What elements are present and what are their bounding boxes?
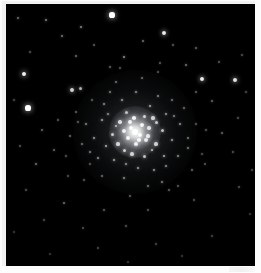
star-point [97,247,99,249]
star-point [53,149,55,151]
star-point [93,44,95,46]
star-point [63,202,65,204]
star-point [101,175,103,177]
star-point [173,115,175,117]
star-point [157,71,159,73]
star-point [19,145,21,147]
star-point [161,129,164,132]
star-point [151,116,154,119]
star-point [123,149,126,152]
star-point [109,91,111,93]
star-point [153,169,156,172]
star-point [128,120,132,124]
star-point [89,151,91,153]
star-point [82,227,84,229]
star-point [187,147,189,149]
star-point [69,135,71,137]
star-point [129,195,131,197]
star-point [161,181,163,183]
star-point [179,123,181,125]
star-point [109,12,114,17]
star-point [147,126,150,129]
star-point [45,19,47,21]
star-point [143,155,146,158]
star-point [162,31,166,35]
star-point [185,64,187,66]
star-point [155,243,157,245]
star-point [245,91,247,93]
star-point [105,145,108,148]
star-point [121,99,124,102]
star-point [57,119,59,121]
star-point [141,77,143,79]
star-point [75,55,77,57]
star-point [132,129,138,135]
star-point [25,189,27,191]
star-point [172,44,174,46]
star-point [159,62,161,64]
star-point [142,40,144,42]
star-point [17,17,19,19]
star-point [165,113,168,116]
star-point [154,142,157,145]
star-point [191,169,193,171]
astronomical-image-viewport [0,0,261,273]
star-point [171,139,174,142]
star-point [77,121,79,123]
star-point [123,56,126,59]
star-point [147,209,149,211]
star-point [221,132,223,134]
star-point [200,77,204,81]
star-point [65,155,67,157]
star-point [13,99,15,101]
star-point [151,149,154,152]
star-point [67,175,69,177]
star-point [211,100,213,102]
star-point [91,99,93,101]
star-point [41,129,43,131]
cluster-halo-glow [73,70,197,194]
star-point [80,26,82,28]
star-point [130,152,133,155]
cluster-core-bloom [109,106,161,158]
star-point [204,163,206,165]
star-point [195,47,197,49]
star-point [97,157,99,159]
star-point [241,54,243,56]
star-point [163,155,166,158]
star-point [238,186,240,188]
star-point [171,99,173,101]
star-point [103,209,105,211]
star-point [155,121,158,124]
star-point [232,151,234,153]
star-point [89,163,91,165]
star-point [116,142,119,145]
star-point [218,61,220,63]
star-point [25,105,30,110]
star-point [237,117,239,119]
star-point [107,113,109,115]
star-point [101,119,104,122]
star-point [168,189,170,191]
star-point [35,163,37,165]
star-point [181,255,182,256]
star-point [122,129,126,133]
star-point [83,179,85,181]
star-point [75,111,77,113]
star-point [140,123,144,127]
star-point [211,235,213,237]
star-point [125,163,127,165]
star-point [127,261,128,262]
star-point [143,115,146,118]
star-point [195,91,197,93]
star-point [70,88,74,92]
star-point [43,219,45,221]
star-point [119,67,121,69]
star-point [103,103,105,105]
star-point [93,137,96,140]
star-point [135,91,137,93]
star-point [109,66,111,68]
star-point [177,155,179,157]
star-point [126,136,130,140]
star-point [115,81,117,83]
